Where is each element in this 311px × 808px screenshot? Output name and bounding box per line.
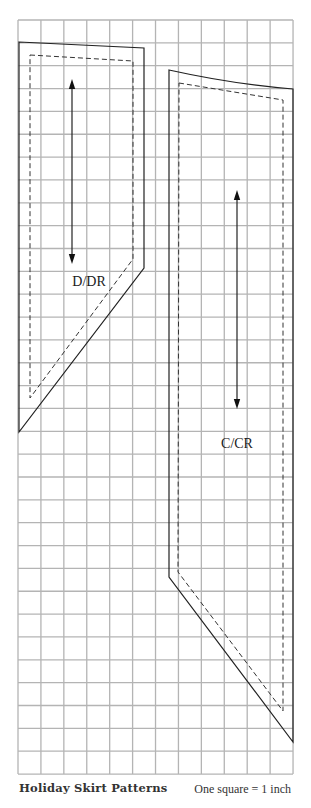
- pattern-piece-d-dr: D/DR: [19, 42, 144, 432]
- arrowhead-down-icon: [69, 254, 75, 264]
- pattern-piece-c-cr: C/CR: [169, 70, 293, 742]
- cut-line: [169, 70, 293, 742]
- inch-grid: [18, 20, 293, 774]
- arrowhead-up-icon: [234, 190, 240, 200]
- figure-title: Holiday Skirt Patterns: [19, 781, 168, 795]
- arrowhead-down-icon: [234, 399, 240, 409]
- piece-label-d-dr: D/DR: [72, 274, 106, 289]
- arrowhead-up-icon: [69, 79, 75, 89]
- piece-label-c-cr: C/CR: [221, 436, 254, 451]
- scale-note: One square = 1 inch: [194, 782, 291, 797]
- seam-line: [178, 83, 283, 711]
- pattern-figure: D/DR C/CR: [0, 0, 311, 808]
- seam-line: [30, 55, 133, 398]
- cut-line: [19, 42, 144, 432]
